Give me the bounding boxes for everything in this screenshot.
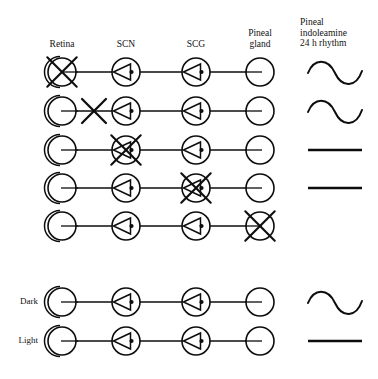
- retina-node: [45, 173, 79, 204]
- scn-node: [112, 327, 140, 355]
- scn-node: [112, 288, 140, 316]
- retina-node: [45, 287, 79, 318]
- retina-node: [45, 135, 79, 166]
- scg-node: [182, 212, 210, 240]
- rhythm-sine-curve: [308, 62, 362, 84]
- scn-node: [112, 97, 140, 125]
- pineal-gland-node: [245, 174, 274, 202]
- retina-node: [45, 211, 79, 242]
- scn-node: [112, 174, 140, 202]
- circadian-pathway-diagram: Retina SCN SCG Pineal gland Pineal indol…: [0, 0, 378, 379]
- pineal-gland-node: [245, 327, 274, 355]
- scg-node: [182, 136, 210, 164]
- diagram-canvas: [0, 0, 378, 379]
- scg-node: [182, 288, 210, 316]
- scg-node: [182, 97, 210, 125]
- rhythm-sine-curve: [308, 101, 362, 123]
- pineal-gland-node: [245, 136, 274, 164]
- pineal-gland-node: [245, 288, 274, 316]
- retina-node: [45, 96, 79, 127]
- scn-node: [112, 58, 140, 86]
- rhythm-sine-curve: [308, 292, 362, 314]
- scg-node: [182, 327, 210, 355]
- scg-node: [182, 58, 210, 86]
- scn-node: [112, 212, 140, 240]
- retina-node: [45, 326, 79, 357]
- pineal-gland-node: [245, 58, 274, 86]
- pineal-gland-node: [245, 97, 274, 125]
